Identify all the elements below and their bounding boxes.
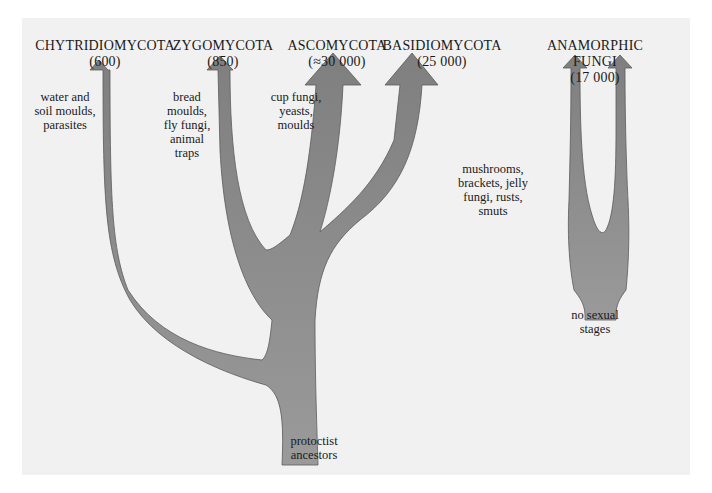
group-title: ZYGOMYCOTA <box>168 38 278 54</box>
group-zygomycota: ZYGOMYCOTA (850) <box>168 38 278 70</box>
group-title: CHYTRIDIOMYCOTA <box>30 38 180 54</box>
group-basidiomycota: BASIDIOMYCOTA (25 000) <box>382 38 502 70</box>
group-title-line-1: ANAMORPHIC <box>545 38 645 54</box>
group-title: BASIDIOMYCOTA <box>382 38 502 54</box>
description-zygomycota: bread moulds, fly fungi, animal traps <box>160 90 214 160</box>
species-count: (≈30 000) <box>282 54 392 70</box>
group-anamorphic-fungi: ANAMORPHIC FUNGI (17 000) <box>545 38 645 86</box>
group-chytridiomycota: CHYTRIDIOMYCOTA (600) <box>30 38 180 70</box>
root-label: protoctist ancestors <box>286 434 342 462</box>
species-count: (600) <box>30 54 180 70</box>
group-ascomycota: ASCOMYCOTA (≈30 000) <box>282 38 392 70</box>
group-title-line-2: FUNGI <box>545 54 645 70</box>
description-anamorphic-fungi: no sexual stages <box>560 308 630 336</box>
description-chytridiomycota: water and soil moulds, parasites <box>30 90 100 132</box>
description-basidiomycota: mushrooms, brackets, jelly fungi, rusts,… <box>448 162 538 218</box>
species-count: (850) <box>168 54 278 70</box>
species-count: (25 000) <box>382 54 502 70</box>
species-count: (17 000) <box>545 70 645 86</box>
description-ascomycota: cup fungi, yeasts, moulds <box>266 90 326 132</box>
group-title: ASCOMYCOTA <box>282 38 392 54</box>
